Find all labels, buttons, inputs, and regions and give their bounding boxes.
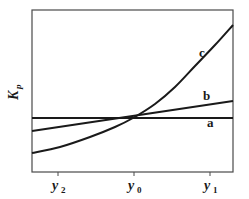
svg-text:K: K	[6, 89, 21, 101]
svg-text:2: 2	[61, 185, 66, 195]
svg-text:p: p	[13, 84, 23, 90]
series-b-line	[32, 101, 233, 131]
x-tick-label-y1: y 1	[202, 178, 218, 195]
curve-label-c: c	[199, 45, 205, 60]
svg-text:y: y	[202, 178, 211, 193]
x-tick-label-y0: y 0	[126, 178, 142, 195]
y-axis-label: K p	[6, 84, 23, 101]
svg-text:1: 1	[213, 185, 218, 195]
x-tick-label-y2: y 2	[50, 178, 66, 195]
kp-chart: c b a y 2 y 0 y 1 K p	[0, 0, 249, 199]
curve-label-b: b	[203, 88, 210, 103]
svg-text:y: y	[50, 178, 59, 193]
svg-text:y: y	[126, 178, 135, 193]
curve-label-a: a	[207, 115, 214, 130]
svg-text:0: 0	[137, 185, 142, 195]
